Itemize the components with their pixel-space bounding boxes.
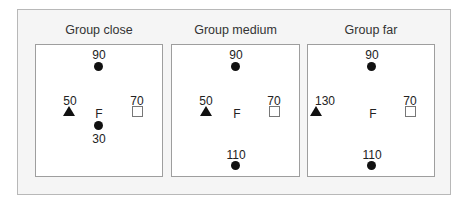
right-square-marker-icon bbox=[269, 106, 280, 117]
left-triangle-marker-icon bbox=[63, 106, 75, 116]
left-triangle-marker-icon bbox=[200, 106, 212, 116]
bottom-value-label: 30 bbox=[84, 133, 114, 145]
top-value-label: 90 bbox=[357, 49, 387, 61]
right-square-marker-icon bbox=[405, 106, 416, 117]
bottom-circle-marker-icon bbox=[94, 121, 103, 130]
group-far-title: Group far bbox=[307, 23, 435, 37]
top-value-label: 90 bbox=[221, 49, 251, 61]
focal-label: F bbox=[366, 108, 380, 120]
bottom-circle-marker-icon bbox=[367, 161, 376, 170]
left-triangle-marker-icon bbox=[310, 106, 322, 116]
group-close-panel: 90 50 F 70 30 bbox=[35, 44, 163, 177]
bottom-value-label: 110 bbox=[221, 149, 251, 161]
top-circle-marker-icon bbox=[367, 62, 376, 71]
focal-label: F bbox=[230, 108, 244, 120]
right-square-marker-icon bbox=[132, 106, 143, 117]
bottom-value-label: 110 bbox=[357, 149, 387, 161]
focal-label: F bbox=[92, 108, 106, 120]
top-circle-marker-icon bbox=[231, 62, 240, 71]
group-close-title: Group close bbox=[35, 23, 163, 37]
group-medium-title: Group medium bbox=[171, 23, 300, 37]
top-value-label: 90 bbox=[84, 49, 114, 61]
top-circle-marker-icon bbox=[94, 62, 103, 71]
bottom-circle-marker-icon bbox=[231, 161, 240, 170]
group-far-panel: 90 130 F 70 110 bbox=[307, 44, 435, 177]
group-medium-panel: 90 50 F 70 110 bbox=[171, 44, 300, 177]
